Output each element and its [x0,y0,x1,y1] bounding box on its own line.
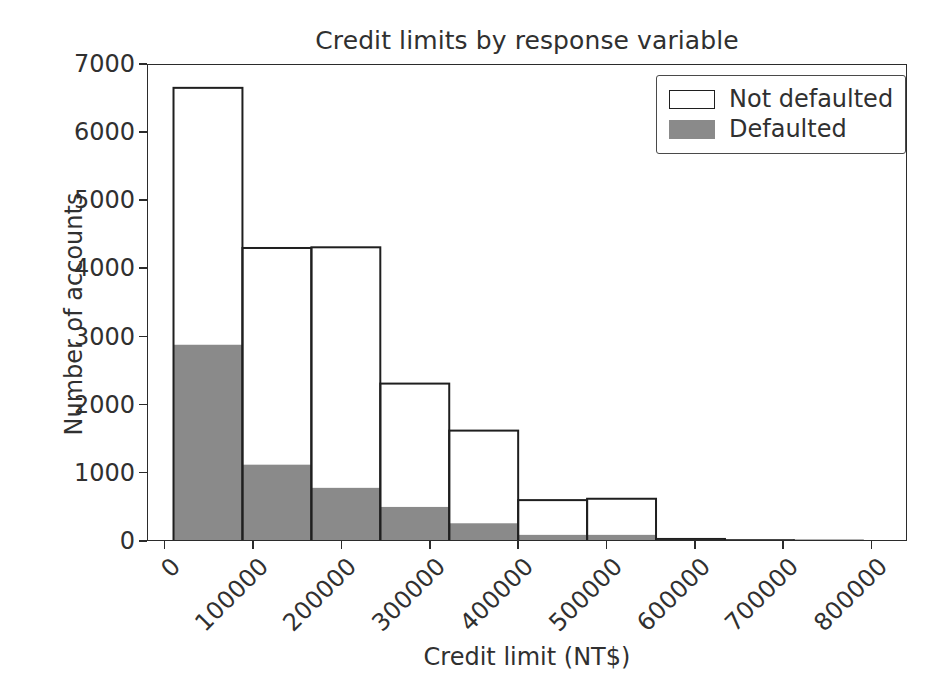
y-tick-label: 6000 [74,117,135,147]
legend-label: Not defaulted [729,86,893,112]
y-tick-mark [139,540,147,542]
y-tick-label: 1000 [74,458,135,488]
y-tick-mark [139,472,147,474]
x-tick-label: 500000 [607,553,608,554]
x-tick-mark [517,541,519,549]
legend-swatch-defaulted [669,120,715,139]
y-tick-mark [139,336,147,338]
x-tick-label-text: 300000 [367,553,450,636]
x-tick-mark [782,541,784,549]
bar-defaulted [380,507,449,541]
y-tick-label: 4000 [74,253,135,283]
x-tick-label: 400000 [519,553,520,554]
x-axis-label: Credit limit (NT$) [147,643,907,671]
x-tick-label: 800000 [872,553,873,554]
x-tick-mark [164,541,166,549]
y-tick-mark [139,63,147,65]
x-tick-label: 300000 [430,553,431,554]
bar-defaulted [174,345,243,541]
x-tick-label: 700000 [784,553,785,554]
x-tick-label: 100000 [254,553,255,554]
chart-title: Credit limits by response variable [147,27,907,55]
legend-entry: Not defaulted [669,84,893,114]
x-tick-label-text: 800000 [809,553,892,636]
y-tick-label: 0 [120,526,135,556]
x-tick-mark [694,541,696,549]
x-tick-mark [606,541,608,549]
bar-defaulted [449,523,518,541]
figure-canvas: Credit limits by response variable Numbe… [0,0,947,689]
x-tick-label-text: 500000 [544,553,627,636]
x-tick-label-text: 700000 [720,553,803,636]
y-axis-ticks: 01000200030004000500060007000 [0,64,147,541]
legend-entry: Defaulted [669,114,893,144]
legend-label: Defaulted [729,116,847,142]
x-tick-mark [429,541,431,549]
y-tick-mark [139,267,147,269]
legend-box: Not defaultedDefaulted [656,75,906,154]
y-tick-label: 7000 [74,49,135,79]
bar-defaulted [242,465,311,541]
x-tick-label-text: 600000 [632,553,715,636]
x-axis-ticks: 0100000200000300000400000500000600000700… [147,541,907,641]
y-tick-label: 5000 [74,185,135,215]
y-tick-mark [139,199,147,201]
y-tick-mark [139,131,147,133]
x-tick-label-text: 100000 [190,553,273,636]
bar-not-defaulted [587,499,656,541]
x-tick-label: 600000 [695,553,696,554]
x-tick-label-text: 400000 [455,553,538,636]
x-tick-label-text: 200000 [279,553,362,636]
x-tick-mark [252,541,254,549]
y-tick-mark [139,404,147,406]
y-tick-label: 2000 [74,390,135,420]
x-tick-label: 0 [165,553,166,554]
bar-defaulted [311,488,380,541]
x-tick-label: 200000 [342,553,343,554]
bar-not-defaulted [518,500,587,541]
x-tick-mark [871,541,873,549]
x-tick-mark [341,541,343,549]
x-tick-label-text: 0 [156,553,185,582]
y-tick-label: 3000 [74,322,135,352]
legend-swatch-not-defaulted [669,90,715,109]
